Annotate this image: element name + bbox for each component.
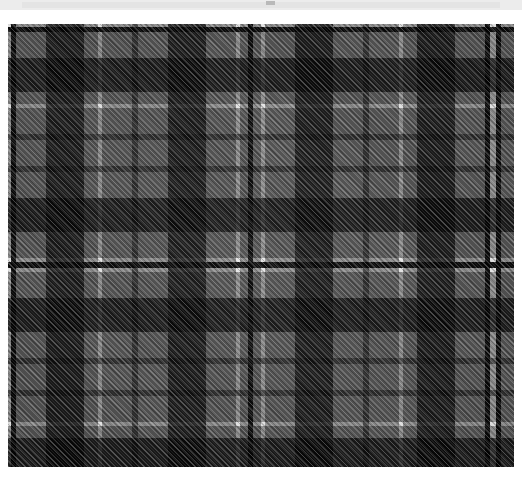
weft-stripe xyxy=(8,32,514,58)
weft-stripe xyxy=(8,426,514,438)
weft-stripe xyxy=(8,108,514,134)
weft-stripe xyxy=(8,332,514,358)
weft-stripe xyxy=(8,58,514,92)
weft-stripe xyxy=(8,364,514,390)
page-root xyxy=(0,0,522,486)
weft-stripe xyxy=(8,140,514,166)
weft-stripe xyxy=(8,172,514,198)
top-banner xyxy=(0,0,522,10)
weft-stripe xyxy=(8,396,514,422)
tartan-swatch xyxy=(8,24,514,467)
top-banner-mark xyxy=(266,1,275,5)
weft-stripe xyxy=(8,438,514,467)
weft-stripe xyxy=(8,92,514,104)
weft-stripe xyxy=(8,298,514,332)
weft-stripe xyxy=(8,198,514,232)
top-banner-inner-strip xyxy=(22,2,500,8)
weft-stripe xyxy=(8,272,514,298)
weft-stripe xyxy=(8,232,514,258)
weft-stripe-layer xyxy=(8,24,514,467)
